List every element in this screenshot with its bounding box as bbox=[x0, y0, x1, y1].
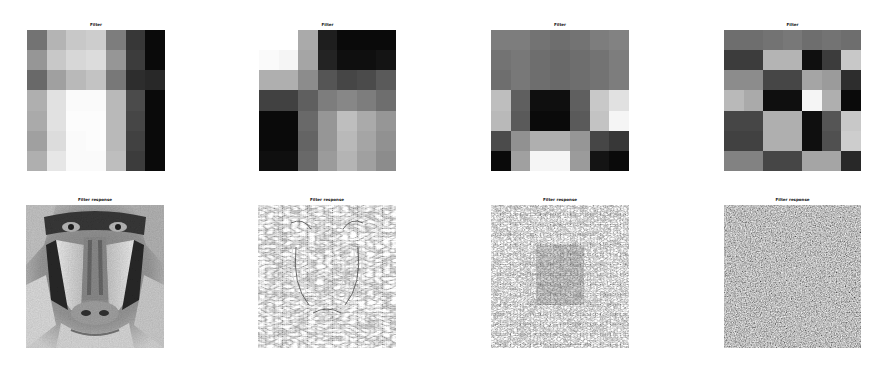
filter-grid-3 bbox=[491, 30, 629, 171]
filter-cell bbox=[609, 30, 629, 50]
filter-cell bbox=[47, 70, 67, 90]
filter-cell bbox=[724, 30, 744, 50]
filter-cell bbox=[337, 111, 357, 131]
filter-cell bbox=[259, 131, 279, 151]
filter-cell bbox=[376, 111, 396, 131]
filter-cell bbox=[318, 30, 338, 50]
filter-cell bbox=[841, 111, 861, 131]
filter-cell bbox=[86, 50, 106, 70]
filter-cell bbox=[783, 50, 803, 70]
filter-cell bbox=[337, 50, 357, 70]
filter-cell bbox=[822, 90, 842, 110]
filter-cell bbox=[376, 131, 396, 151]
filter-cell bbox=[47, 50, 67, 70]
filter-cell bbox=[744, 70, 764, 90]
filter-cell bbox=[66, 30, 86, 50]
response-panel-2: Filter response bbox=[258, 197, 396, 349]
filter-cell bbox=[298, 50, 318, 70]
filter-cell bbox=[145, 70, 165, 90]
filter-cell bbox=[376, 30, 396, 50]
filter-cell bbox=[802, 70, 822, 90]
filter-cell bbox=[841, 151, 861, 171]
noise-response-image bbox=[724, 205, 861, 348]
filter-cell bbox=[763, 50, 783, 70]
filter-cell bbox=[491, 151, 511, 171]
filter-cell bbox=[86, 151, 106, 171]
filter-panel-2: Filter bbox=[259, 22, 396, 172]
filter-cell bbox=[590, 70, 610, 90]
filter-cell bbox=[27, 131, 47, 151]
filter-cell bbox=[337, 30, 357, 50]
filter-cell bbox=[86, 111, 106, 131]
filter-cell bbox=[126, 50, 146, 70]
filter-cell bbox=[511, 111, 531, 131]
filter-cell bbox=[511, 90, 531, 110]
filter-cell bbox=[86, 90, 106, 110]
filter-cell bbox=[298, 151, 318, 171]
filter-cell bbox=[279, 50, 299, 70]
filter-cell bbox=[106, 151, 126, 171]
filter-cell bbox=[511, 151, 531, 171]
filter-cell bbox=[279, 131, 299, 151]
filter-cell bbox=[590, 90, 610, 110]
filter-cell bbox=[47, 131, 67, 151]
filter-cell bbox=[106, 111, 126, 131]
edge-response-image-strong bbox=[258, 205, 396, 348]
filter-cell bbox=[106, 131, 126, 151]
filter-cell bbox=[550, 131, 570, 151]
filter-cell bbox=[491, 50, 511, 70]
filter-cell bbox=[822, 70, 842, 90]
filter-cell bbox=[822, 30, 842, 50]
filter-cell bbox=[783, 111, 803, 131]
filter-cell bbox=[802, 30, 822, 50]
filter-cell bbox=[570, 90, 590, 110]
filter-cell bbox=[550, 50, 570, 70]
filter-cell bbox=[609, 131, 629, 151]
filter-cell bbox=[259, 151, 279, 171]
response-title-2: Filter response bbox=[258, 197, 396, 202]
filter-cell bbox=[530, 90, 550, 110]
filter-cell bbox=[491, 90, 511, 110]
filter-cell bbox=[27, 111, 47, 131]
filter-cell bbox=[724, 70, 744, 90]
filter-cell bbox=[106, 50, 126, 70]
filter-cell bbox=[298, 131, 318, 151]
filter-cell bbox=[609, 70, 629, 90]
filter-cell bbox=[47, 151, 67, 171]
filter-cell bbox=[376, 90, 396, 110]
filter-cell bbox=[298, 90, 318, 110]
filter-cell bbox=[550, 30, 570, 50]
filter-cell bbox=[744, 50, 764, 70]
filter-cell bbox=[337, 131, 357, 151]
filter-cell bbox=[47, 90, 67, 110]
filter-cell bbox=[318, 70, 338, 90]
filter-cell bbox=[337, 151, 357, 171]
filter-cell bbox=[86, 131, 106, 151]
filter-cell bbox=[376, 151, 396, 171]
filter-cell bbox=[259, 111, 279, 131]
response-title-3: Filter response bbox=[491, 197, 629, 202]
filter-cell bbox=[86, 70, 106, 90]
filter-cell bbox=[783, 151, 803, 171]
filter-cell bbox=[550, 111, 570, 131]
filter-cell bbox=[357, 30, 377, 50]
filter-cell bbox=[491, 70, 511, 90]
filter-cell bbox=[126, 70, 146, 90]
filter-cell bbox=[27, 151, 47, 171]
filter-cell bbox=[822, 151, 842, 171]
filter-cell bbox=[279, 70, 299, 90]
filter-cell bbox=[279, 111, 299, 131]
filter-cell bbox=[511, 70, 531, 90]
filter-cell bbox=[145, 90, 165, 110]
filter-cell bbox=[145, 30, 165, 50]
filter-cell bbox=[783, 131, 803, 151]
filter-cell bbox=[66, 111, 86, 131]
filter-cell bbox=[744, 151, 764, 171]
filter-cell bbox=[106, 90, 126, 110]
filter-cell bbox=[783, 70, 803, 90]
filter-cell bbox=[318, 111, 338, 131]
filter-cell bbox=[106, 70, 126, 90]
filter-cell bbox=[841, 131, 861, 151]
filter-cell bbox=[259, 30, 279, 50]
filter-cell bbox=[841, 90, 861, 110]
